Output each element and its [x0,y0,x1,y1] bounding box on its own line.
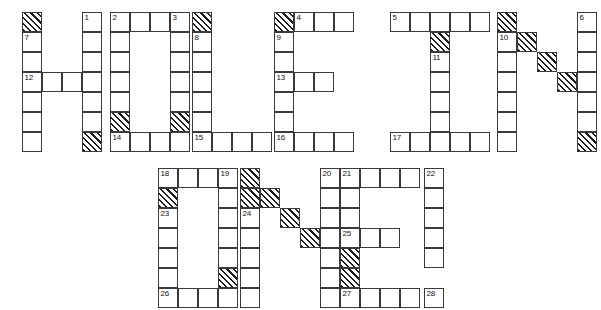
answer-cell[interactable] [424,188,444,208]
crossword-puzzle: 7121231481549131651117106181923262420212… [0,0,601,310]
answer-cell[interactable] [424,248,444,268]
answer-cell[interactable]: 22 [424,168,444,188]
answer-cell[interactable]: 28 [424,288,444,308]
answer-cell[interactable] [424,228,444,248]
letter-group-exclamation: 2228 [0,0,601,310]
clue-number: 22 [427,169,435,178]
answer-cell[interactable] [424,208,444,228]
clue-number: 28 [427,289,435,298]
